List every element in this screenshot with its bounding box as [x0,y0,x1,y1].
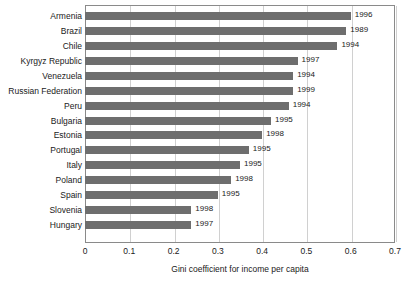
x-tick-label: 0.3 [212,245,224,257]
category-label: Estonia [0,128,82,143]
bar-year-label: 1995 [271,113,293,127]
category-label: Venezuela [0,69,82,84]
x-tick-label: 0.5 [301,245,313,257]
bar [85,191,218,199]
bar-row: 1998 [85,203,395,218]
category-label: Hungary [0,218,82,233]
bar [85,176,231,184]
category-axis-labels: ArmeniaBrazilChileKyrgyz RepublicVenezue… [0,5,82,243]
bar [85,221,191,229]
bar-year-label: 1995 [249,142,271,156]
bar [85,87,293,95]
category-label: Russian Federation [0,84,82,99]
bar-row: 1995 [85,143,395,158]
category-label: Bulgaria [0,114,82,129]
bar [85,12,351,20]
category-label: Brazil [0,24,82,39]
bar-year-label: 1997 [298,53,320,67]
bar [85,117,271,125]
bar [85,131,262,139]
bar-year-label: 1998 [231,172,253,186]
category-label: Italy [0,158,82,173]
bar-year-label: 1995 [240,157,262,171]
bar-row: 1996 [85,9,395,24]
category-label: Spain [0,188,82,203]
bar-year-label: 1995 [218,187,240,201]
gini-coefficient-bar-chart: ArmeniaBrazilChileKyrgyz RepublicVenezue… [0,0,407,284]
category-label: Armenia [0,9,82,24]
x-tick-label: 0 [83,245,88,257]
bar-year-label: 1997 [191,217,213,231]
bar [85,57,298,65]
bar-year-label: 1994 [337,38,359,52]
bar-row: 1998 [85,173,395,188]
bar-row: 1995 [85,188,395,203]
x-tick-label: 0.4 [256,245,268,257]
category-label: Kyrgyz Republic [0,54,82,69]
bar-year-label: 1998 [262,127,284,141]
x-tick-label: 0.2 [168,245,180,257]
bar-year-label: 1994 [293,68,315,82]
bar [85,72,293,80]
bar-year-label: 1989 [346,23,368,37]
gridline [396,6,397,242]
bar-year-label: 1999 [293,83,315,97]
bar-row: 1994 [85,39,395,54]
bar [85,102,289,110]
bar [85,161,240,169]
bar-year-label: 1994 [289,98,311,112]
bar-row: 1995 [85,158,395,173]
x-tick-label: 0.7 [389,245,401,257]
bar-row: 1994 [85,69,395,84]
bar-row: 1997 [85,54,395,69]
bar [85,206,191,214]
bar-row: 1994 [85,99,395,114]
bars-layer: 1996198919941997199419991994199519981995… [85,5,395,243]
category-label: Slovenia [0,203,82,218]
bar-row: 1999 [85,84,395,99]
category-label: Poland [0,173,82,188]
bar [85,42,337,50]
bar-row: 1995 [85,114,395,129]
category-label: Portugal [0,143,82,158]
value-axis-ticks: 00.10.20.30.40.50.60.7 [85,245,395,259]
bar-row: 1998 [85,128,395,143]
x-tick-label: 0.1 [123,245,135,257]
bar [85,146,249,154]
bar-year-label: 1998 [191,202,213,216]
bar-year-label: 1996 [351,8,373,22]
bar-row: 1997 [85,218,395,233]
category-label: Peru [0,99,82,114]
category-label: Chile [0,39,82,54]
bar-row: 1989 [85,24,395,39]
x-tick-label: 0.6 [345,245,357,257]
bar [85,27,346,35]
x-axis-title: Gini coefficient for income per capita [85,264,395,274]
